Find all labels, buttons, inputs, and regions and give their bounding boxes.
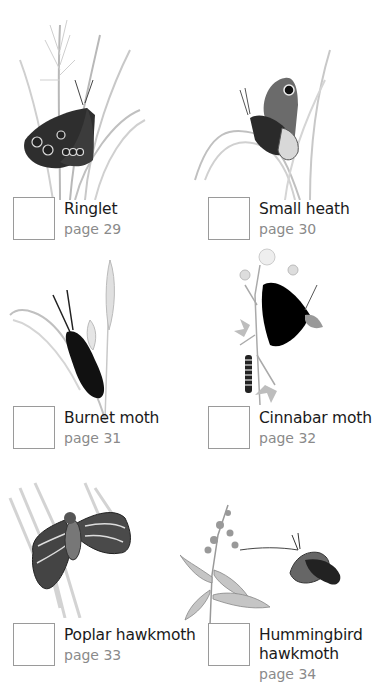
species-name-line2: hawkmoth xyxy=(259,645,339,663)
page-reference: page 34 xyxy=(259,666,316,683)
checkbox-burnet-moth[interactable] xyxy=(13,406,55,449)
checkbox-poplar-hawkmoth[interactable] xyxy=(13,623,55,666)
page-reference: page 30 xyxy=(259,221,316,238)
burnet-moth-on-grass-icon xyxy=(5,250,145,420)
ringlet-butterfly-on-grass-icon xyxy=(15,10,165,200)
hummingbird-hawkmoth-at-flower-icon xyxy=(180,495,360,625)
checkbox-small-heath[interactable] xyxy=(208,197,250,240)
page-reference: page 32 xyxy=(259,430,316,447)
species-name: Cinnabar moth xyxy=(259,409,372,427)
page-reference: page 31 xyxy=(64,430,121,447)
species-name-line1: Hummingbird xyxy=(259,626,363,644)
checkbox-ringlet[interactable] xyxy=(13,197,55,240)
species-name: Poplar hawkmoth xyxy=(64,626,196,644)
poplar-hawkmoth-on-bark-icon xyxy=(5,478,155,618)
page-reference: page 33 xyxy=(64,647,121,664)
species-name: Small heath xyxy=(259,200,350,218)
species-name: Ringlet xyxy=(64,200,117,218)
checkbox-cinnabar-moth[interactable] xyxy=(208,406,250,449)
page-reference: page 29 xyxy=(64,221,121,238)
cinnabar-moth-and-caterpillar-on-ragwort-icon xyxy=(225,245,345,405)
species-name: Burnet moth xyxy=(64,409,159,427)
checkbox-hummingbird-hawkmoth[interactable] xyxy=(208,623,250,666)
small-heath-butterfly-on-grass-icon xyxy=(190,40,350,200)
